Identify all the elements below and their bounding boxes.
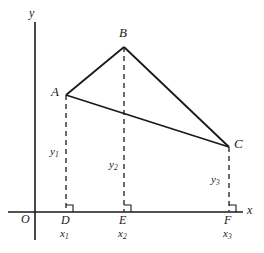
segment-ab (66, 47, 124, 95)
foot-label-d: D (61, 214, 70, 226)
vertex-label-b: B (119, 26, 127, 39)
height-label-y1-sub: 1 (55, 150, 59, 159)
vertex-label-a: A (51, 85, 59, 98)
foot-coord-x1-sub: 1 (65, 232, 69, 241)
right-angle-marker-e (124, 205, 131, 212)
height-label-y2-sub: 2 (114, 163, 118, 172)
foot-coord-x2-sub: 2 (123, 232, 127, 241)
vertex-label-c: C (234, 137, 243, 150)
y-axis-label: y (29, 7, 34, 19)
height-label-y3: y3 (211, 174, 220, 186)
origin-label: O (21, 213, 30, 225)
right-angle-marker-f (229, 205, 236, 212)
foot-coord-x2: x2 (118, 228, 127, 240)
height-label-y1: y1 (50, 146, 59, 158)
x-axis-label: x (247, 204, 252, 216)
foot-label-e: E (119, 214, 126, 226)
foot-coord-x3: x3 (223, 228, 232, 240)
foot-coord-x3-sub: 3 (228, 232, 232, 241)
segment-bc (124, 47, 229, 147)
foot-coord-x1: x1 (60, 228, 69, 240)
height-label-y3-sub: 3 (216, 178, 220, 187)
right-angle-marker-d (66, 205, 73, 212)
geometry-figure: y x O A B C D x1 E x2 F x3 y1 y2 y3 (0, 0, 264, 253)
segment-ac (66, 95, 229, 147)
foot-label-f: F (224, 214, 231, 226)
height-label-y2: y2 (109, 159, 118, 171)
